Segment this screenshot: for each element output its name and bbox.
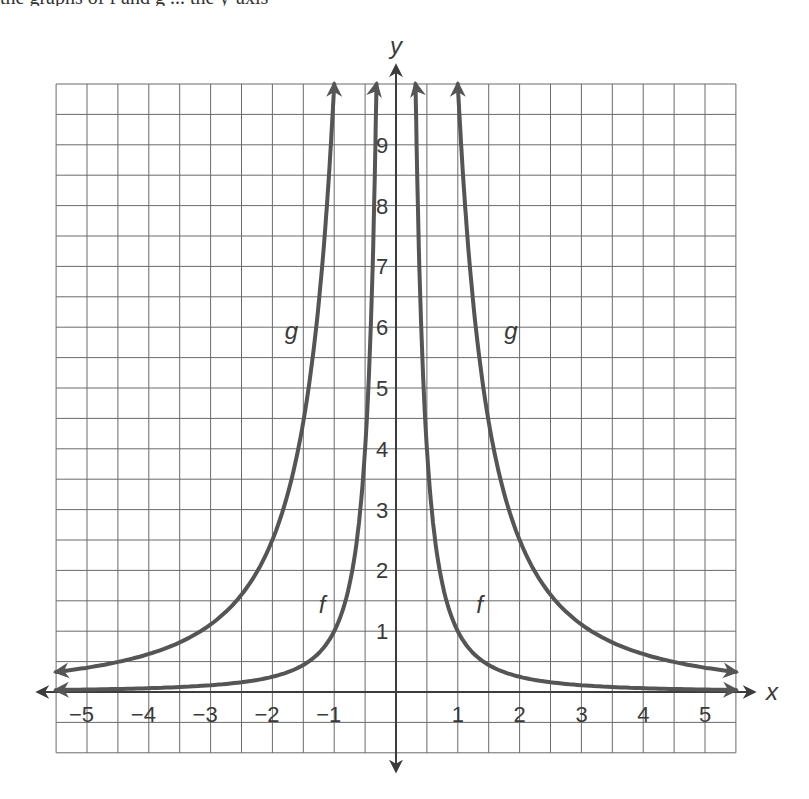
curve-label-f: f	[476, 591, 485, 618]
curve-label-g: g	[504, 317, 518, 344]
curve-label-g: g	[285, 317, 299, 344]
curve-label-f: f	[319, 591, 328, 618]
y-tick-label: 7	[376, 254, 388, 279]
x-tick-label: 4	[637, 702, 649, 727]
curve-g-right-branch	[458, 84, 736, 672]
y-tick-label: 9	[376, 133, 388, 158]
x-tick-label: 1	[452, 702, 464, 727]
x-tick-label: −2	[254, 702, 279, 727]
x-tick-label: −4	[131, 702, 156, 727]
curve-labels: ffgg	[285, 317, 518, 618]
y-tick-label: 1	[376, 619, 388, 644]
x-tick-label: 3	[575, 702, 587, 727]
y-tick-label: 3	[376, 498, 388, 523]
x-tick-label: 2	[514, 702, 526, 727]
y-tick-label: 8	[376, 194, 388, 219]
x-tick-label: −5	[69, 702, 94, 727]
curve-g-left-branch	[56, 84, 334, 672]
x-tick-label: 5	[699, 702, 711, 727]
x-tick-label: −3	[193, 702, 218, 727]
y-tick-label: 4	[376, 437, 388, 462]
x-tick-label: −1	[316, 702, 341, 727]
y-tick-label: 6	[376, 315, 388, 340]
function-graph: xy −5−4−3−2−112345123456789 ffgg	[0, 0, 809, 799]
y-tick-label: 5	[376, 376, 388, 401]
x-axis-label: x	[765, 678, 779, 705]
y-axis-label: y	[388, 32, 404, 59]
y-tick-label: 2	[376, 558, 388, 583]
tick-labels: −5−4−3−2−112345123456789	[69, 133, 711, 727]
